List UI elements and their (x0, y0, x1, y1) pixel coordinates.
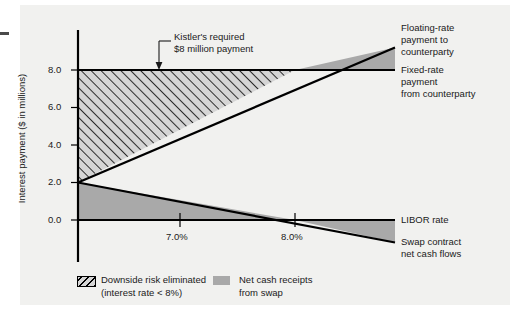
y-tick-label-8: 8.0 (48, 64, 61, 76)
legend-label-downside-risk-line2: (interest rate < 8%) (101, 287, 182, 299)
side-label-floating-line3: counterparty (401, 46, 454, 58)
side-label-floating-line2: payment to (401, 34, 448, 46)
region-downside-risk-eliminated (78, 70, 295, 183)
x-tick-label-8pct: 8.0% (281, 231, 303, 243)
side-label-swap-line1: Swap contract (401, 236, 461, 248)
legend-swatch-downside-risk (77, 276, 96, 287)
y-tick-label-2: 2.0 (48, 176, 61, 188)
legend-label-downside-risk-line1: Downside risk eliminated (101, 274, 206, 286)
y-tick-label-6: 6.0 (48, 101, 61, 113)
side-label-floating-line1: Floating-rate (401, 22, 454, 34)
y-tick-label-0: 0.0 (48, 214, 61, 226)
y-tick-label-4: 4.0 (48, 139, 61, 151)
annotation-kistler-line1: Kistler's required (174, 31, 244, 43)
annotation-kistler-line2: $8 million payment (174, 43, 253, 55)
legend-label-net-cash-receipts-line2: from swap (239, 287, 283, 299)
annotation-arrowhead-icon (156, 62, 163, 70)
legend-label-net-cash-receipts-line1: Net cash receipts (239, 274, 312, 286)
swap-cash-flow-chart: Interest payment ($ in millions) 0.0 2.0… (0, 0, 529, 321)
side-label-libor: LIBOR rate (401, 214, 449, 226)
side-label-fixed-line2: payment (401, 76, 437, 88)
y-axis-title: Interest payment ($ in millions) (16, 74, 27, 204)
x-tick-label-7pct: 7.0% (166, 231, 188, 243)
side-label-fixed-line1: Fixed-rate (401, 64, 444, 76)
side-label-swap-line2: net cash flows (401, 248, 461, 260)
legend-swatch-net-cash-receipts (213, 276, 230, 285)
side-label-fixed-line3: from counterparty (401, 88, 475, 100)
region-net-cash-receipts-upper (295, 48, 395, 71)
